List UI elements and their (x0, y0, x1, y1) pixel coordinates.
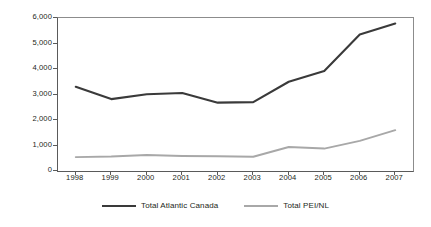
y-tick-label: 1,000 (0, 141, 52, 149)
x-tick-mark (359, 171, 360, 175)
plot-area (57, 17, 414, 172)
x-tick-mark (323, 171, 324, 175)
legend-entry[interactable]: Total Atlantic Canada (102, 201, 218, 211)
legend-label: Total Atlantic Canada (141, 201, 218, 211)
legend-line-swatch (102, 205, 136, 207)
series-line-total-atlantic-canada (76, 24, 396, 103)
y-tick-label: 6,000 (0, 13, 52, 21)
x-tick-mark (75, 171, 76, 175)
x-tick-mark (288, 171, 289, 175)
y-tick-label: 2,000 (0, 115, 52, 123)
plot-svg (58, 18, 413, 171)
y-tick-label: 5,000 (0, 39, 52, 47)
y-tick-label: 4,000 (0, 64, 52, 72)
y-axis: 01,0002,0003,0004,0005,0006,000 (0, 0, 52, 227)
x-tick-mark (217, 171, 218, 175)
x-tick-mark (146, 171, 147, 175)
line-chart: 01,0002,0003,0004,0005,0006,000 19981999… (0, 0, 431, 227)
y-tick-label: 0 (0, 166, 52, 174)
legend-line-swatch (244, 205, 278, 207)
x-tick-mark (110, 171, 111, 175)
x-tick-mark (252, 171, 253, 175)
legend-entry[interactable]: Total PEI/NL (244, 201, 329, 211)
legend-label: Total PEI/NL (283, 201, 329, 211)
x-tick-mark (181, 171, 182, 175)
y-tick-label: 3,000 (0, 90, 52, 98)
chart-legend: Total Atlantic CanadaTotal PEI/NL (0, 198, 431, 214)
series-line-total-pei-nl (76, 130, 396, 157)
x-tick-mark (394, 171, 395, 175)
x-axis: 1998199920002001200220032004200520062007 (57, 173, 413, 187)
